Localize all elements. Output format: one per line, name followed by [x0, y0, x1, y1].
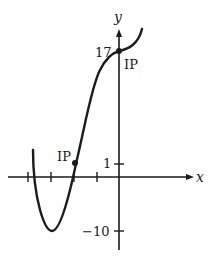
x-axis — [8, 172, 194, 182]
x-axis-arrow-icon — [186, 174, 194, 180]
y-label-17: 17 — [95, 45, 112, 60]
y-axis-arrow-icon — [116, 29, 122, 37]
y-label-neg10: −10 — [82, 224, 109, 239]
y-axis — [114, 29, 124, 250]
x-axis-label: x — [196, 169, 204, 185]
y-axis-label: y — [113, 9, 123, 25]
ip-label-bottom: IP — [57, 149, 71, 164]
inflection-point-top — [116, 48, 122, 54]
ip-label-top: IP — [124, 57, 138, 72]
y-label-1: 1 — [103, 156, 111, 171]
graph: x y 17 IP IP 1 −10 — [0, 0, 212, 257]
inflection-point-bottom — [72, 160, 78, 166]
